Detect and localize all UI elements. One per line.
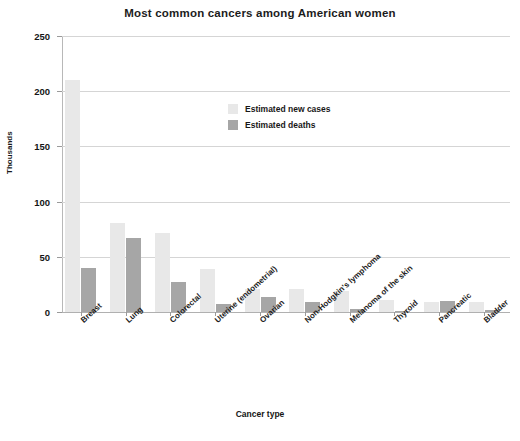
legend-item-cases: Estimated new cases: [228, 104, 331, 114]
gridline: [62, 202, 510, 203]
y-tick-label: 0: [8, 307, 50, 318]
y-tick-label: 200: [8, 86, 50, 97]
chart-legend: Estimated new cases Estimated deaths: [228, 104, 331, 136]
y-tick-mark: [57, 146, 62, 147]
chart-title: Most common cancers among American women: [0, 7, 520, 19]
bar-cases: [155, 233, 170, 312]
gridline: [62, 36, 510, 37]
legend-swatch-deaths-icon: [228, 120, 238, 130]
bar-cases: [379, 300, 394, 312]
bar-cases: [110, 223, 125, 312]
bar-cases: [289, 289, 304, 312]
legend-label-deaths: Estimated deaths: [245, 120, 315, 130]
y-tick-label: 150: [8, 141, 50, 152]
bar-cases: [469, 302, 484, 312]
y-tick-mark: [57, 257, 62, 258]
bar-cases: [200, 269, 215, 312]
y-tick-label: 50: [8, 251, 50, 262]
legend-label-cases: Estimated new cases: [245, 104, 331, 114]
legend-swatch-cases-icon: [228, 104, 238, 114]
x-axis-title: Cancer type: [0, 409, 520, 419]
plot-area: [62, 36, 510, 312]
legend-item-deaths: Estimated deaths: [228, 120, 331, 130]
gridline: [62, 91, 510, 92]
y-tick-mark: [57, 91, 62, 92]
bar-cases: [65, 80, 80, 312]
y-axis-title: Thousands: [5, 131, 14, 174]
bar-deaths: [126, 238, 141, 312]
y-tick-mark: [57, 202, 62, 203]
gridline: [62, 146, 510, 147]
y-tick-label: 250: [8, 31, 50, 42]
y-tick-label: 100: [8, 196, 50, 207]
y-tick-mark: [57, 312, 62, 313]
y-tick-mark: [57, 36, 62, 37]
bar-cases: [424, 302, 439, 312]
chart-container: Most common cancers among American women…: [0, 0, 520, 441]
